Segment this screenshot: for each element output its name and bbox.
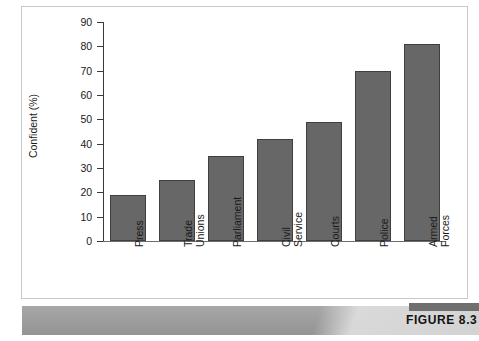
- y-axis-tick: [97, 95, 103, 96]
- x-axis-tick-label: Press: [134, 177, 146, 247]
- y-axis-tick-label: 60: [66, 90, 92, 100]
- x-axis-line: [103, 241, 446, 242]
- bar-chart: 0102030405060708090 Confident (%) PressT…: [0, 0, 479, 300]
- x-axis-tick-label: Armed Forces: [428, 177, 451, 247]
- y-axis-tick: [97, 168, 103, 169]
- figure-page: 0102030405060708090 Confident (%) PressT…: [0, 0, 479, 341]
- y-axis-tick-label: 20: [66, 187, 92, 197]
- x-axis-tick-label: Civil Service: [281, 177, 304, 247]
- y-axis-tick-label: 50: [66, 114, 92, 124]
- y-axis-tick: [97, 192, 103, 193]
- y-axis-tick: [97, 241, 103, 242]
- figure-tag-label: FIGURE 8.3: [406, 313, 477, 327]
- y-axis-tick-label: 40: [66, 139, 92, 149]
- y-axis-tick-label: 30: [66, 163, 92, 173]
- bars-layer: [104, 22, 446, 241]
- figure-tag-block: [409, 303, 479, 311]
- y-axis-tick: [97, 217, 103, 218]
- y-axis-tick-label: 0: [66, 236, 92, 246]
- y-axis-title: Confident (%): [27, 66, 39, 186]
- y-axis-tick-label: 70: [66, 66, 92, 76]
- x-axis-tick-label: Trade Unions: [183, 177, 206, 247]
- x-axis-tick-label: Parliament: [232, 177, 244, 247]
- y-axis-tick: [97, 144, 103, 145]
- y-axis-tick-label: 80: [66, 41, 92, 51]
- x-axis-tick-label: Police: [379, 177, 391, 247]
- y-axis-tick: [97, 119, 103, 120]
- x-axis-tick-label: Courts: [330, 177, 342, 247]
- y-axis-tick: [97, 71, 103, 72]
- y-axis-tick: [97, 22, 103, 23]
- y-axis-tick: [97, 46, 103, 47]
- caption-title: Trust in Political Institutions: [57, 7, 214, 21]
- y-axis-tick-label: 10: [66, 212, 92, 222]
